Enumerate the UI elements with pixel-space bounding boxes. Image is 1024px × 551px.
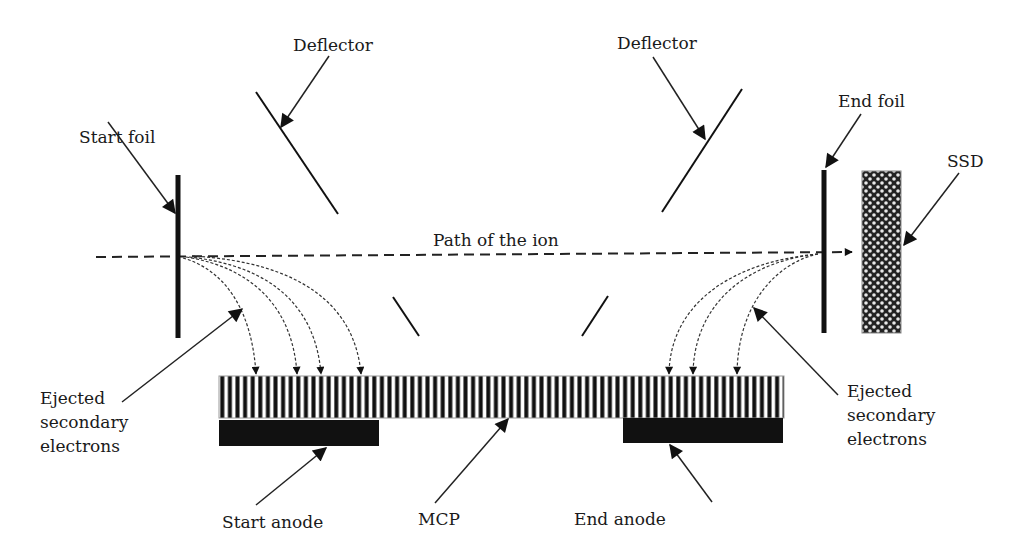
deflector-right xyxy=(582,89,742,336)
mcp-plate xyxy=(219,376,784,418)
end-foil xyxy=(822,170,827,333)
start-anode xyxy=(219,420,379,446)
start-foil-label: Start foil xyxy=(79,127,155,147)
start-anode-leader xyxy=(256,448,326,505)
start-anode-label: Start anode xyxy=(222,512,323,532)
svg-text:electrons: electrons xyxy=(847,429,927,449)
ejected-electrons-left-label: Ejected secondary electrons xyxy=(40,388,129,456)
svg-text:electrons: electrons xyxy=(40,436,120,456)
mcp-label: MCP xyxy=(418,509,460,529)
end-anode-label: End anode xyxy=(574,509,666,529)
deflector-left xyxy=(256,92,419,336)
start-foil xyxy=(176,175,181,338)
tof-detector-diagram: Path of the ion Start foil Deflector Def… xyxy=(0,0,1024,551)
deflector-right-leader xyxy=(653,57,705,139)
svg-text:Ejected: Ejected xyxy=(40,388,105,408)
deflector-left-label: Deflector xyxy=(293,35,374,55)
end-anode-leader xyxy=(670,445,712,502)
svg-text:Ejected: Ejected xyxy=(847,381,912,401)
ion-path-label: Path of the ion xyxy=(433,230,559,250)
ion-path xyxy=(96,252,852,257)
svg-text:secondary: secondary xyxy=(40,412,129,432)
mcp-leader xyxy=(435,419,508,503)
deflector-left-leader xyxy=(281,56,329,127)
end-anode xyxy=(623,418,783,443)
end-foil-label: End foil xyxy=(838,91,905,111)
ejected-electrons-right-label: Ejected secondary electrons xyxy=(847,381,936,449)
svg-text:secondary: secondary xyxy=(847,405,936,425)
end-foil-leader xyxy=(826,114,861,167)
ssd-detector xyxy=(862,171,901,333)
deflector-right-label: Deflector xyxy=(617,33,698,53)
secondary-electrons-right xyxy=(669,254,818,374)
ssd-leader xyxy=(904,173,959,245)
ssd-label: SSD xyxy=(947,151,984,171)
secondary-electrons-left xyxy=(183,256,361,374)
